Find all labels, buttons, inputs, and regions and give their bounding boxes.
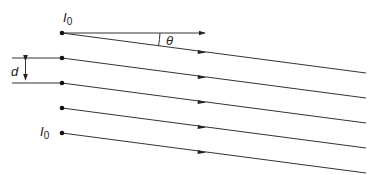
top-intensity-label: I0 bbox=[63, 10, 73, 27]
source-dot bbox=[60, 131, 65, 136]
angle-label: θ bbox=[166, 33, 173, 48]
diffraction-grating-diagram: θ d I0 I0 bbox=[0, 0, 376, 175]
source-dot bbox=[60, 81, 65, 86]
rays bbox=[62, 33, 366, 173]
ray-3 bbox=[62, 83, 366, 123]
bottom-intensity-label: I0 bbox=[40, 124, 50, 141]
angle-arc bbox=[159, 33, 161, 46]
ray-4 bbox=[62, 108, 366, 148]
ray-2 bbox=[62, 58, 366, 98]
sources bbox=[60, 31, 65, 136]
ray-1 bbox=[62, 33, 366, 73]
spacing-label: d bbox=[11, 64, 19, 79]
source-dot bbox=[60, 106, 65, 111]
ray-5 bbox=[62, 133, 366, 173]
source-dot bbox=[60, 56, 65, 61]
source-dot bbox=[60, 31, 65, 36]
